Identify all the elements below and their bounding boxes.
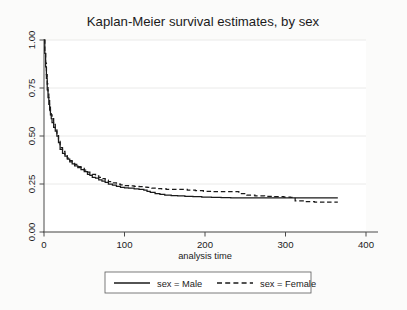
kaplan-meier-plot: 0100200300400 0.000.250.500.751.00 Kapla…	[0, 0, 407, 310]
legend-label-female: sex = Female	[260, 279, 316, 289]
x-tick-label-300: 300	[277, 239, 293, 250]
x-tick-label-0: 0	[41, 239, 46, 250]
x-axis-label: analysis time	[178, 251, 232, 261]
chart-figure: 0100200300400 0.000.250.500.751.00 Kapla…	[0, 0, 407, 310]
chart-title: Kaplan-Meier survival estimates, by sex	[87, 14, 320, 29]
y-axis-ticks: 0.000.250.500.751.00	[26, 31, 44, 242]
x-axis-ticks: 0100200300400	[41, 232, 374, 250]
x-tick-label-400: 400	[358, 239, 374, 250]
x-tick-label-200: 200	[197, 239, 213, 250]
x-tick-label-100: 100	[116, 239, 132, 250]
y-tick-label-0.75: 0.75	[26, 79, 37, 98]
y-tick-label-0.50: 0.50	[26, 127, 37, 146]
y-tick-label-1.00: 1.00	[26, 31, 37, 50]
legend-label-male: sex = Male	[157, 279, 202, 289]
chart-legend: sex = Male sex = Female	[105, 272, 316, 293]
y-tick-label-0.00: 0.00	[26, 223, 37, 242]
y-tick-label-0.25: 0.25	[26, 175, 37, 194]
